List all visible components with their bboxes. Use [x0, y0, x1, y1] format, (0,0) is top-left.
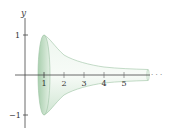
gabriels-horn-figure: y 1 −1 1 2 3 4 5 · · · [0, 0, 171, 137]
x-tick-label-2: 2 [62, 79, 67, 88]
x-tick-label-5: 5 [122, 79, 127, 88]
x-tick-label-1: 1 [42, 79, 47, 88]
x-tick-label-3: 3 [82, 79, 87, 88]
y-tick-label-minus1: −1 [9, 111, 21, 120]
y-axis-label: y [20, 8, 27, 18]
y-tick-label-1: 1 [15, 31, 20, 40]
x-tick-label-4: 4 [102, 79, 107, 88]
continuation-dots: · · · [151, 71, 162, 79]
